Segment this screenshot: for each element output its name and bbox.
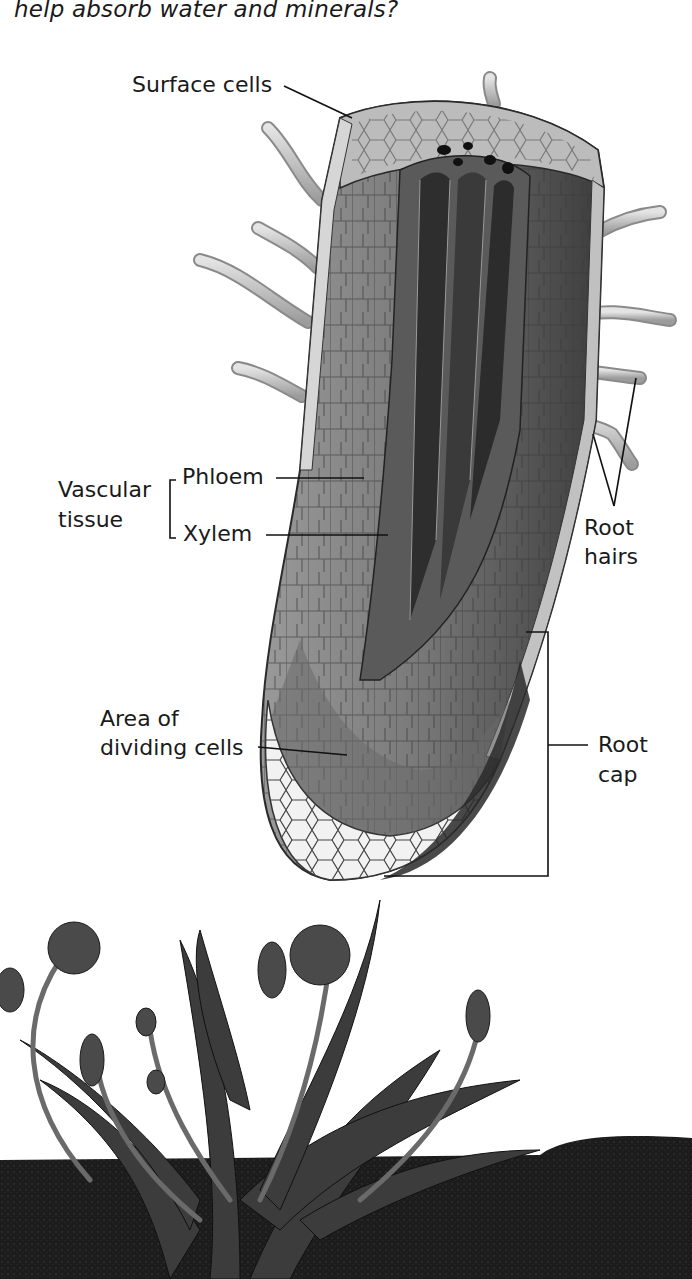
label-dividing-cells-line1: Area of xyxy=(100,704,179,733)
label-root-hairs-line1: Root xyxy=(584,513,634,542)
label-vascular-tissue-line2: tissue xyxy=(58,505,123,534)
label-root-hairs-line2: hairs xyxy=(584,542,638,571)
root-body xyxy=(261,101,604,880)
label-surface-cells: Surface cells xyxy=(132,70,272,99)
root-illustration xyxy=(0,0,692,1279)
label-root-cap-line1: Root xyxy=(598,730,648,759)
label-xylem: Xylem xyxy=(183,519,252,548)
label-vascular-tissue-line1: Vascular xyxy=(58,475,151,504)
label-root-cap-line2: cap xyxy=(598,760,638,789)
label-phloem: Phloem xyxy=(182,462,264,491)
label-dividing-cells-line2: dividing cells xyxy=(100,733,244,762)
dandelion-photo xyxy=(0,900,692,1279)
